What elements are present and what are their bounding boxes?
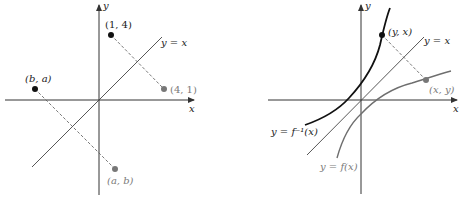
- point-4-1: [161, 86, 167, 92]
- point-x-y: [423, 77, 429, 83]
- right-panel: y x y = x (y, x) (x, y) y = f⁻¹(x) y = f…: [268, 0, 459, 194]
- left-panel: y x y = x (1, 4) (4, 1) (b, a) (a, b): [5, 0, 197, 195]
- point-b-a: [32, 86, 38, 92]
- inverse-function-curve: [305, 8, 390, 125]
- left-y-axis-label: y: [102, 0, 109, 11]
- function-curve-label: y = f(x): [319, 161, 358, 172]
- label-x-y: (x, y): [429, 84, 455, 95]
- point-a-b: [112, 166, 118, 172]
- label-a-b: (a, b): [107, 175, 134, 186]
- label-y-x: (y, x): [388, 26, 412, 37]
- left-diagonal-line: [32, 37, 162, 167]
- right-diagonal-label: y = x: [423, 35, 450, 46]
- label-1-4: (1, 4): [105, 19, 132, 30]
- left-diagonal-label: y = x: [160, 37, 187, 48]
- inverse-curve-label: y = f⁻¹(x): [270, 126, 318, 137]
- point-y-x: [379, 32, 385, 38]
- right-diagonal-line: [307, 37, 424, 155]
- right-y-axis-label: y: [364, 0, 371, 11]
- label-4-1: (4, 1): [170, 84, 197, 95]
- label-b-a: (b, a): [25, 73, 52, 84]
- left-dashed-segment-2: [35, 89, 115, 169]
- left-x-axis-label: x: [189, 103, 195, 114]
- diagram-canvas: y x y = x (1, 4) (4, 1) (b, a) (a, b) y …: [0, 0, 459, 205]
- point-1-4: [108, 32, 114, 38]
- right-x-axis-label: x: [453, 103, 459, 114]
